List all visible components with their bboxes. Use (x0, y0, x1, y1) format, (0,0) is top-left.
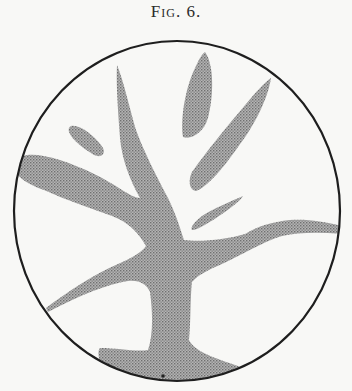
center-leaf (182, 52, 212, 138)
specimen-shapes (16, 52, 342, 382)
specimen-dot (161, 374, 165, 378)
small-dash (191, 196, 243, 230)
left-bud (69, 126, 104, 156)
microscope-figure (0, 0, 352, 391)
